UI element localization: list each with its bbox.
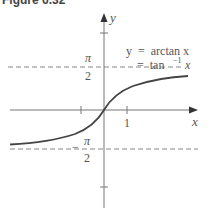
lower-den-label: 2 [84,151,90,165]
arctan-plot: y x 1 π 2 − π 2 y = arctan x = tan −1 x [0,0,211,214]
lower-pi-label: π [84,134,91,148]
upper-pi-label: π [85,51,92,65]
equation-line2: = tan [137,58,164,72]
lower-minus-label: − [72,140,79,154]
y-axis-label: y [108,10,116,25]
upper-den-label: 2 [85,69,91,83]
equation-exponent: −1 [173,56,182,65]
x-tick-one-label: 1 [124,116,130,130]
equation-line2-var: x [184,58,191,72]
x-axis-arrow-icon [189,107,198,114]
x-axis-label: x [191,114,198,129]
y-axis-arrow-icon [101,13,108,22]
